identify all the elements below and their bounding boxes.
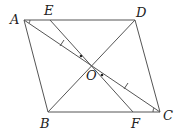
label-D: D xyxy=(135,5,147,20)
label-E: E xyxy=(43,3,54,18)
label-O: O xyxy=(86,68,97,83)
angle-dot-EO xyxy=(80,55,83,58)
angle-dot-FO xyxy=(101,74,104,77)
label-F: F xyxy=(130,116,141,131)
tick-mark-OC xyxy=(124,83,128,89)
label-A: A xyxy=(9,12,19,27)
label-C: C xyxy=(163,108,173,123)
tick-mark-AO xyxy=(60,40,64,46)
angle-mark-C xyxy=(153,108,154,112)
label-B: B xyxy=(39,116,50,131)
segment-EF xyxy=(50,20,133,112)
parallelogram-diagram: A E D B F C O xyxy=(0,0,180,132)
